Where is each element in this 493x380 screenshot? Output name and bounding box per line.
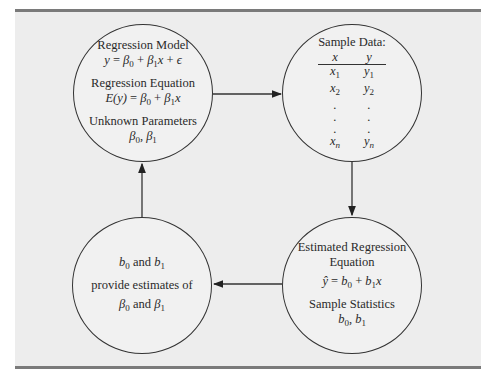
formula-b0-and-b1: b0 and b1 — [119, 255, 165, 274]
table-row: .. — [318, 99, 386, 111]
column-header-y: y — [352, 51, 386, 65]
formula-regression-equation: E(y) = β0 + β1x — [105, 91, 180, 110]
table-row: x2 y2 — [318, 82, 386, 99]
connector-arrows — [0, 0, 493, 380]
label-unknown-parameters: Unknown Parameters — [89, 114, 197, 129]
label-sample-data: Sample Data: — [318, 35, 386, 50]
formula-sample-statistics: b0, b1 — [338, 312, 366, 331]
label-equation: Equation — [329, 255, 374, 270]
label-estimated-regression: Estimated Regression — [298, 240, 407, 255]
table-row: .. — [318, 111, 386, 123]
node-sample-data: Sample Data: x y x1 y1 x2 y2 .. .. .. xn… — [282, 24, 422, 162]
node-inference: b0 and b1 provide estimates of β0 and β1 — [72, 217, 212, 354]
formula-beta0-and-beta1: β0 and β1 — [119, 297, 165, 316]
table-row: .. — [318, 123, 386, 135]
table-row: xn yn — [318, 135, 386, 152]
table-row: x1 y1 — [318, 64, 386, 82]
column-header-x: x — [318, 51, 352, 65]
label-provide-estimates: provide estimates of — [91, 278, 192, 293]
label-regression-equation: Regression Equation — [91, 76, 195, 91]
label-regression-model: Regression Model — [97, 38, 188, 53]
formula-estimated-regression: ŷ = b0 + b1x — [322, 274, 381, 293]
formula-regression-model: y = β0 + β1x + ϵ — [104, 53, 182, 72]
formula-unknown-parameters: β0, β1 — [129, 129, 157, 148]
node-regression-model: Regression Model y = β0 + β1x + ϵ Regres… — [73, 24, 213, 162]
label-sample-statistics: Sample Statistics — [309, 297, 395, 312]
node-estimated-regression: Estimated Regression Equation ŷ = b0 + b… — [282, 217, 422, 354]
sample-data-table: x y x1 y1 x2 y2 .. .. .. xn yn — [318, 51, 386, 152]
